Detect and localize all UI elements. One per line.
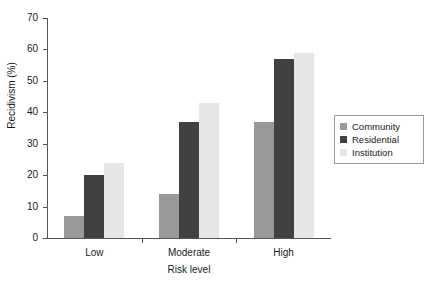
bar-community-moderate (159, 194, 179, 238)
y-tick-label: 70 (8, 13, 38, 23)
bar-residential-high (274, 59, 294, 238)
x-category-label-high: High (239, 247, 329, 258)
x-tick-mark (236, 239, 237, 243)
legend-label: Institution (352, 148, 393, 158)
bar-institution-high (294, 53, 314, 238)
legend-label: Community (352, 122, 400, 132)
y-tick-label: 10 (8, 202, 38, 212)
bar-community-low (64, 216, 84, 238)
legend-item-community: Community (340, 120, 417, 133)
x-axis-line (47, 238, 331, 239)
y-axis-title: Recidivism (%) (6, 36, 17, 156)
bar-community-high (254, 122, 274, 238)
legend-item-institution: Institution (340, 146, 417, 159)
chart-legend: CommunityResidentialInstitution (334, 115, 424, 164)
bar-institution-low (104, 163, 124, 238)
bar-institution-moderate (199, 103, 219, 238)
legend-swatch-icon (340, 123, 347, 130)
bars-layer (47, 18, 331, 238)
legend-label: Residential (352, 135, 399, 145)
x-category-label-low: Low (49, 247, 139, 258)
bar-residential-moderate (179, 122, 199, 238)
legend-swatch-icon (340, 149, 347, 156)
y-tick-mark (43, 238, 47, 239)
y-tick-label: 0 (8, 233, 38, 243)
legend-swatch-icon (340, 136, 347, 143)
bar-chart: 010203040506070 Recidivism (%) LowModera… (0, 0, 430, 287)
y-tick-label: 20 (8, 170, 38, 180)
x-category-label-moderate: Moderate (144, 247, 234, 258)
bar-residential-low (84, 175, 104, 238)
x-axis-title: Risk level (47, 264, 331, 275)
x-tick-mark (142, 239, 143, 243)
legend-item-residential: Residential (340, 133, 417, 146)
